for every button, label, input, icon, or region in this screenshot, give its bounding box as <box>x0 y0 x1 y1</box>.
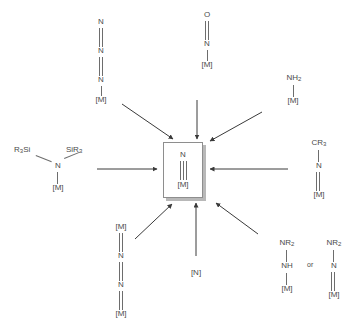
product-metal-label: [M] <box>177 180 188 189</box>
imide-subscript: 3 <box>323 141 326 147</box>
hydrazide-nh-label: NH <box>281 261 293 270</box>
silylamide-metal-label: [M] <box>52 183 63 192</box>
nitrosyl-metal-label: [M] <box>201 60 212 69</box>
azide-n2-label: N <box>98 46 104 55</box>
hydrazide-alt-metal-label: [M] <box>328 290 339 299</box>
nitrosyl-oxygen-label: O <box>204 10 210 19</box>
hydrazide-alt-nitrogen-label: N <box>331 261 337 270</box>
hydrazide-nr-text: NR <box>280 238 292 247</box>
azide-n3-label: N <box>98 75 104 84</box>
amide-nh-text: NH <box>287 73 299 82</box>
bridging-metal-bottom-label: [M] <box>115 309 126 318</box>
hydrazide-nr2-label: NR2 <box>280 238 295 249</box>
amide-metal-label: [M] <box>287 96 298 105</box>
hydrazide-metal-label: [M] <box>281 284 292 293</box>
bridging-n1-label: N <box>118 251 124 260</box>
or-separator-label: or <box>307 261 313 268</box>
arrow-from-hydrazide <box>216 203 258 234</box>
amide-nh2-label: NH2 <box>287 73 302 84</box>
azide-metal-label: [M] <box>95 95 106 104</box>
hydrazide-alt-nr2-label: NR2 <box>327 238 342 249</box>
product-nitrogen-label: N <box>180 150 186 159</box>
arrow-from-azide-terminal <box>122 104 173 139</box>
silylamide-nitrogen-label: N <box>55 161 61 170</box>
hydrazide-nr-sub: 2 <box>291 241 294 247</box>
arrow-from-bridging-dinitrogen <box>135 204 172 239</box>
hydrazide-alt-nr-sub: 2 <box>338 241 341 247</box>
imide-metal-label: [M] <box>313 190 324 199</box>
azide-n1-label: N <box>98 17 104 26</box>
arrow-from-amide <box>210 112 262 141</box>
nitrosyl-nitrogen-label: N <box>204 39 210 48</box>
imide-cr-text: CR <box>312 138 324 147</box>
nitrogen-atom-label: [N] <box>191 268 201 277</box>
silylamide-left-group-label: R3Si <box>14 145 30 156</box>
reaction-scheme-diagram: N [M] N N N [M] O N [M] NH2 [M] R3Si SiR… <box>0 0 359 329</box>
imide-nitrogen-label: N <box>316 161 322 170</box>
bridging-n2-label: N <box>118 280 124 289</box>
amide-subscript: 2 <box>298 76 301 82</box>
imide-cr3-label: CR3 <box>312 138 327 149</box>
silylamide-left-si: Si <box>23 145 30 154</box>
bridging-metal-top-label: [M] <box>115 222 126 231</box>
hydrazide-alt-nr-text: NR <box>327 238 339 247</box>
